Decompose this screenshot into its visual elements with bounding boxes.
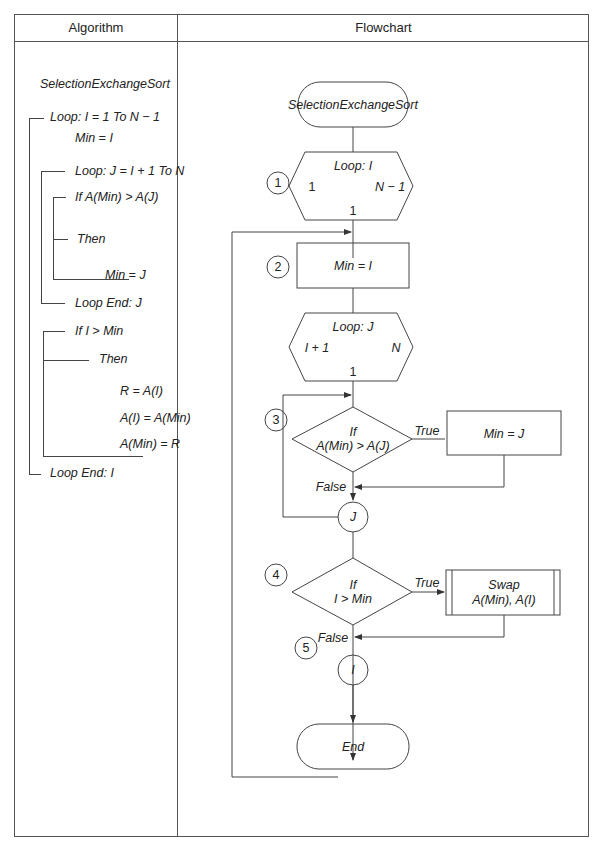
connector-i-label: I	[351, 663, 355, 677]
step-3: 3	[273, 413, 280, 427]
loop-i-label: Loop: I	[334, 159, 373, 173]
swap-args: A(Min), A(I)	[471, 593, 535, 607]
swap-title: Swap	[488, 578, 519, 592]
decision-1-condition: A(Min) > A(J)	[315, 439, 390, 453]
decision-2-if: If	[350, 578, 358, 592]
step-4: 4	[273, 568, 280, 582]
loop-j-step: 1	[350, 365, 357, 379]
connector-j-label: J	[349, 510, 357, 524]
loop-j-start: I + 1	[305, 341, 330, 355]
min-j-label: Min = J	[484, 427, 525, 441]
decision-2-condition: I > Min	[334, 592, 372, 606]
decision-2-true: True	[415, 576, 440, 590]
loop-i-end: N − 1	[375, 180, 405, 194]
loop-j-end: N	[391, 341, 401, 355]
loop-j-label: Loop: J	[332, 320, 374, 334]
flowchart: SelectionExchangeSort Loop: I 1 N − 1 1 …	[0, 0, 601, 852]
decision-1-false: False	[316, 480, 347, 494]
start-label: SelectionExchangeSort	[288, 98, 418, 112]
step-5: 5	[303, 641, 310, 655]
loop-i-step: 1	[350, 204, 357, 218]
decision-2-false: False	[318, 631, 349, 645]
step-1: 1	[275, 176, 282, 190]
step-2: 2	[275, 260, 282, 274]
loop-i-start: 1	[309, 180, 316, 194]
min-i-label: Min = I	[334, 259, 372, 273]
decision-1-true: True	[415, 424, 440, 438]
end-label: End	[342, 740, 365, 754]
decision-1-if: If	[350, 425, 358, 439]
